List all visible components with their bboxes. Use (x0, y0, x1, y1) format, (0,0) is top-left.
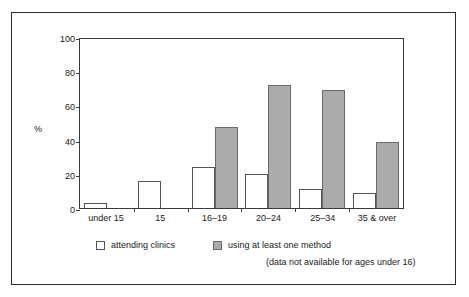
x-label-16-19: 16–19 (187, 213, 241, 224)
y-tick-label-100: 100 (60, 35, 75, 44)
bar-using-16-19 (215, 127, 238, 208)
bar-using-25-34 (322, 90, 345, 208)
bar-groups (80, 39, 403, 208)
y-tick-label-0: 0 (70, 206, 75, 215)
x-axis-labels: under 15 15 16–19 20–24 25–34 35 & over (79, 213, 404, 224)
bar-attending-16-19 (192, 167, 215, 208)
bar-attending-20-24 (245, 174, 268, 208)
bar-attending-under-15 (84, 203, 107, 208)
legend-swatch-gray-icon (213, 241, 222, 250)
figure-frame: % 100 80 60 40 20 (11, 12, 456, 285)
legend-label-attending-clinics: attending clinics (111, 239, 175, 251)
legend-item-using-method: using at least one method (213, 239, 331, 251)
bar-group-25-34 (295, 39, 349, 208)
y-tick-label-20: 20 (65, 172, 75, 181)
legend-label-using-method: using at least one method (228, 239, 331, 251)
bar-group-35-over (349, 39, 403, 208)
y-tick-label-60: 60 (65, 103, 75, 112)
chart-legend: attending clinics using at least one met… (79, 239, 439, 268)
bar-attending-15 (138, 181, 161, 208)
plot-area: 100 80 60 40 20 0 (79, 38, 404, 209)
y-tick-label-40: 40 (65, 138, 75, 147)
legend-note: (data not available for ages under 16) (266, 256, 439, 268)
x-label-20-24: 20–24 (242, 213, 296, 224)
bar-group-16-19 (188, 39, 242, 208)
x-label-15: 15 (133, 213, 187, 224)
bar-using-35-over (376, 142, 399, 208)
x-label-under-15: under 15 (79, 213, 133, 224)
bar-group-under-15 (80, 39, 134, 208)
y-axis-label: % (34, 125, 42, 134)
bar-attending-35-over (353, 193, 376, 208)
bar-group-20-24 (241, 39, 295, 208)
x-label-35-over: 35 & over (350, 213, 404, 224)
x-label-25-34: 25–34 (296, 213, 350, 224)
legend-item-attending-clinics: attending clinics (96, 239, 175, 251)
y-tick-label-80: 80 (65, 69, 75, 78)
legend-swatch-white-icon (96, 241, 105, 250)
bar-attending-25-34 (299, 189, 322, 208)
bar-group-15 (134, 39, 188, 208)
bar-using-20-24 (268, 85, 291, 208)
bar-chart: % 100 80 60 40 20 (12, 13, 457, 286)
